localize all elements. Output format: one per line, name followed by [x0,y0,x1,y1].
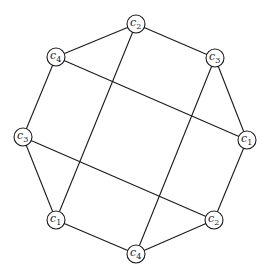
edge-n_ul-n_l [23,57,56,137]
node-c1: c1 [47,211,65,229]
edge-n_ul-n_r [56,57,247,140]
node-c3: c3 [206,49,224,67]
node-subscript: 1 [56,218,61,227]
edge-n_top-n_ur [136,24,215,58]
edge-n_r-n_lr [214,140,247,220]
graph-diagram: c2c4c3c3c1c1c2c4 [0,0,270,276]
node-subscript: 2 [136,22,141,31]
node-c2: c2 [127,15,145,33]
node-c3: c3 [14,128,32,146]
node-subscript: 4 [56,55,61,64]
edge-n_l-n_lr [23,137,214,220]
node-c4: c4 [47,48,65,66]
node-c2: c2 [205,211,223,229]
node-subscript: 3 [215,56,220,65]
node-subscript: 2 [214,218,219,227]
edge-n_ll-n_bot [56,220,136,254]
node-subscript: 4 [136,252,141,261]
node-c1: c1 [238,131,256,149]
nodes-layer: c2c4c3c3c1c1c2c4 [14,15,256,263]
node-c4: c4 [127,245,145,263]
node-subscript: 1 [247,138,252,147]
edge-n_top-n_ll [56,24,136,220]
node-subscript: 3 [23,135,28,144]
